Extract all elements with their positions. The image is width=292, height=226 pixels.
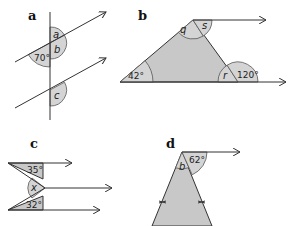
angle-b-text: b [54, 44, 60, 55]
angle-32-text: 32° [26, 200, 42, 210]
angle-a-text: a [53, 29, 59, 40]
diagram-d-label: d [166, 136, 175, 151]
angle-c-text: c [54, 90, 60, 101]
diagram-c-label: c [30, 136, 38, 151]
angle-62-text: 62° [189, 155, 205, 165]
angle-b-text: b [179, 161, 185, 172]
diagram-a-label: a [28, 8, 37, 23]
diagram-b: b q s 42° r 120° [120, 8, 286, 82]
angle-problems-figure: a a b 70° c b q s 42° r 120° c [0, 0, 292, 226]
diagram-b-label: b [138, 8, 147, 23]
angle-s-text: s [202, 20, 207, 31]
diagram-a: a a b 70° c [15, 8, 106, 120]
angle-q-text: q [180, 24, 186, 35]
diagram-c: c 35° x 32° [8, 136, 112, 210]
diagram-d: d b 62° [152, 136, 240, 226]
angle-35-text: 35° [27, 165, 43, 175]
angle-42-text: 42° [128, 71, 144, 81]
angle-x-text: x [30, 182, 37, 193]
angle-70-text: 70° [34, 53, 50, 63]
angle-120-text: 120° [237, 70, 259, 80]
